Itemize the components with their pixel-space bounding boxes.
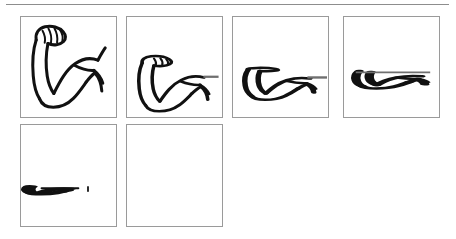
frame-1-artwork [21,17,116,117]
frame-3[interactable] [232,16,329,118]
frame-5[interactable] [20,124,117,227]
frame-2[interactable] [126,16,223,118]
frame-2-artwork [127,17,222,117]
frame-6-artwork [127,125,222,226]
frame-4[interactable] [343,16,440,118]
panel-grid [0,0,456,239]
frame-3-artwork [233,17,328,117]
frame-4-artwork [344,17,439,117]
frame-6[interactable] [126,124,223,227]
frame-1[interactable] [20,16,117,118]
frame-5-speck [87,186,89,191]
frame-5-artwork [21,125,116,226]
screenshot-stage [0,0,456,239]
